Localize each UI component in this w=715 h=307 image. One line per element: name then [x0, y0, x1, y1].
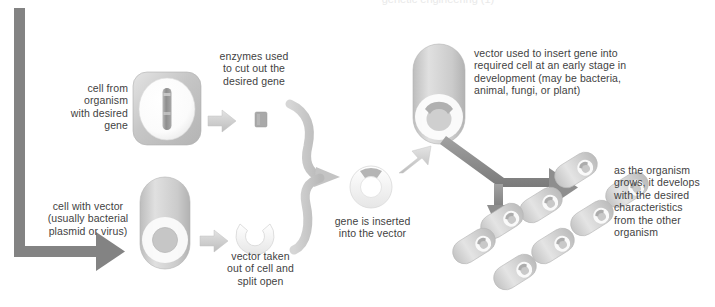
label-vector-taken-out: vector taken out of cell and split open	[208, 250, 313, 287]
label-gene-inserted: gene is inserted into the vector	[321, 215, 424, 240]
merge-arrow-top	[290, 104, 340, 187]
donor-cell	[133, 72, 201, 145]
label-vector-used-to-insert: vector used to insert gene into required…	[474, 47, 702, 97]
label-as-organism-grows: as the organism grows, it develops with …	[614, 164, 714, 238]
vector-cell	[140, 177, 190, 269]
label-cell-from-organism: cell from organism with desired gene	[48, 82, 128, 132]
merge-arrow-bottom	[294, 178, 320, 250]
arrow-split-vector	[200, 230, 228, 252]
label-enzymes-used: enzymes used to cut out the desired gene	[199, 50, 309, 87]
gene-fragment	[255, 112, 267, 127]
host-cell	[413, 44, 465, 144]
recombinant-vector	[350, 166, 392, 208]
label-cell-with-vector: cell with vector (usually bacterial plas…	[33, 200, 143, 237]
arrow-insert-into-cell	[399, 146, 431, 173]
arrow-cut-gene	[208, 110, 236, 132]
